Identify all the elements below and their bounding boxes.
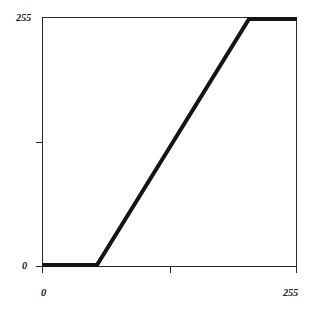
x-axis-min-label: 0 bbox=[41, 288, 46, 299]
y-axis-max-label: 255 bbox=[16, 13, 31, 24]
tone-curve-chart: 255 0 0 255 bbox=[0, 0, 315, 312]
chart-canvas bbox=[0, 0, 315, 312]
x-axis-max-label: 255 bbox=[283, 288, 298, 299]
y-axis-min-label: 0 bbox=[22, 261, 27, 272]
